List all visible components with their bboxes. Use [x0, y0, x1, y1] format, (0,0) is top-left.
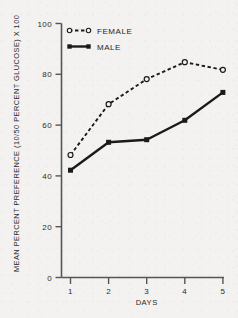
y-tick-label-100: 100: [37, 20, 52, 29]
legend-female-marker-right: [86, 28, 90, 32]
glucose-preference-line-chart: 100 80 60 40 20 0 MEAN PERCENT PREFERENC…: [0, 0, 238, 318]
x-tick-label-1: 1: [68, 287, 73, 296]
legend-male-marker-right: [86, 44, 90, 48]
legend-female-label: FEMALE: [97, 27, 132, 36]
data-point-female-day1: [68, 153, 73, 158]
data-point-female-day2: [106, 102, 111, 107]
y-tick-label-60: 60: [42, 121, 52, 130]
data-point-female-day5: [220, 67, 225, 72]
data-point-male-day2: [106, 140, 111, 145]
legend-male-marker-left: [67, 44, 71, 48]
data-point-male-day1: [68, 168, 73, 173]
x-axis-title: DAYS: [136, 298, 158, 307]
x-tick-label-4: 4: [182, 287, 187, 296]
legend-female-marker-left: [67, 28, 71, 32]
y-axis-title: MEAN PERCENT PREFERENCE (10/50 PERCENT G…: [12, 15, 21, 272]
data-point-male-day5: [220, 90, 225, 95]
y-tick-label-20: 20: [42, 223, 52, 232]
x-tick-label-5: 5: [220, 287, 225, 296]
data-point-male-day3: [144, 137, 149, 142]
x-tick-label-3: 3: [144, 287, 149, 296]
x-tick-label-2: 2: [106, 287, 111, 296]
y-tick-label-40: 40: [42, 172, 52, 181]
data-point-female-day3: [144, 77, 149, 82]
y-tick-label-0: 0: [47, 274, 52, 283]
legend-male-label: MALE: [97, 43, 121, 52]
y-tick-label-80: 80: [42, 70, 52, 79]
data-point-male-day4: [182, 118, 187, 123]
data-point-female-day4: [182, 60, 187, 65]
